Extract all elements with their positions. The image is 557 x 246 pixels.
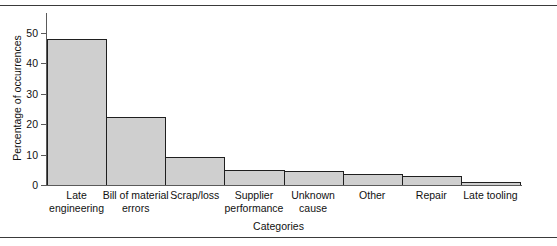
pareto-chart-figure: 01020304050 Late engineeringBill of mate… <box>0 0 557 246</box>
bar <box>224 170 284 185</box>
bar <box>284 171 344 185</box>
x-axis-category-label: Late tooling <box>449 189 532 202</box>
y-axis-title: Percentage of occurrences <box>11 13 23 183</box>
bar <box>343 174 403 185</box>
bar <box>106 117 166 185</box>
bar <box>165 157 225 185</box>
bar <box>461 182 521 185</box>
x-axis-title: Categories <box>0 220 557 232</box>
bar <box>402 176 462 185</box>
bar <box>47 39 107 185</box>
